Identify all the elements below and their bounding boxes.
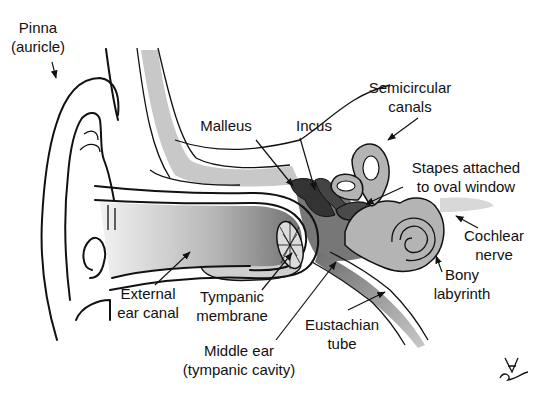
label-external-canal-2: ear canal xyxy=(117,304,179,321)
label-middle-ear-1: Middle ear xyxy=(204,342,274,359)
arrow-pinna xyxy=(52,62,56,78)
pinna xyxy=(42,49,119,340)
label-middle-ear-2: (tympanic cavity) xyxy=(183,361,296,378)
ear-anatomy-diagram: Pinna (auricle) Malleus Incus Semicircul… xyxy=(0,0,556,402)
label-eustachian-2: tube xyxy=(327,335,356,352)
label-bony-labyrinth-2: labyrinth xyxy=(434,285,491,302)
label-semicircular-2: canals xyxy=(388,98,431,115)
label-pinna-1: Pinna xyxy=(19,19,58,36)
label-malleus: Malleus xyxy=(200,117,252,134)
label-incus: Incus xyxy=(296,117,332,134)
label-semicircular-1: Semicircular xyxy=(369,79,452,96)
label-stapes-2: to oval window xyxy=(417,178,516,195)
label-cochlear-nerve-2: nerve xyxy=(475,246,513,263)
label-stapes-1: Stapes attached xyxy=(412,159,520,176)
label-external-canal-1: External xyxy=(120,285,175,302)
arrow-bony-labyrinth xyxy=(436,256,442,272)
label-tympanic-membrane-2: membrane xyxy=(196,307,268,324)
label-eustachian-1: Eustachian xyxy=(305,316,379,333)
signature-mark xyxy=(500,358,528,380)
label-pinna-2: (auricle) xyxy=(11,38,65,55)
label-tympanic-membrane-1: Tympanic xyxy=(200,288,265,305)
label-bony-labyrinth-1: Bony xyxy=(445,266,480,283)
arrow-semicircular xyxy=(388,118,418,140)
label-cochlear-nerve-1: Cochlear xyxy=(464,227,524,244)
